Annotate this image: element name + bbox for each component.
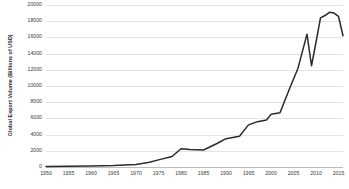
y-axis-title-text: Global Export Volume (Billions of USD) — [7, 34, 13, 136]
y-tick-label: 2000 — [30, 148, 42, 153]
x-tick-label: 2015 — [333, 170, 345, 176]
y-tick-label: 20000 — [28, 2, 42, 7]
x-tick-label: 1975 — [153, 170, 165, 176]
y-tick-label: 0 — [39, 164, 42, 169]
x-tick-label: 1985 — [198, 170, 210, 176]
y-tick-label: 18000 — [28, 19, 42, 24]
x-tick-label: 1990 — [220, 170, 232, 176]
x-tick-label: 1995 — [243, 170, 255, 176]
chart-figure: Global Export Volume (Billions of USD) 0… — [0, 0, 349, 189]
x-tick-label: 1970 — [130, 170, 142, 176]
plot-area — [46, 5, 343, 167]
x-tick-label: 1960 — [85, 170, 97, 176]
y-axis-tick-labels: 0200040006000800010000120001400016000180… — [20, 0, 44, 189]
x-axis-tick-labels: 1950195519601965197019751980198519901995… — [46, 170, 343, 182]
series-line-chart — [46, 5, 343, 167]
x-tick-label: 1950 — [40, 170, 52, 176]
y-tick-label: 16000 — [28, 35, 42, 40]
y-tick-label: 14000 — [28, 51, 42, 56]
series-line-global-export-volume — [46, 12, 343, 166]
y-tick-label: 8000 — [30, 100, 42, 105]
y-tick-label: 10000 — [28, 83, 42, 88]
x-tick-label: 2005 — [288, 170, 300, 176]
y-tick-label: 6000 — [30, 116, 42, 121]
x-tick-label: 1965 — [108, 170, 120, 176]
gridline — [46, 167, 343, 168]
y-tick-label: 4000 — [30, 132, 42, 137]
x-tick-label: 1955 — [63, 170, 75, 176]
x-tick-label: 1980 — [175, 170, 187, 176]
x-tick-label: 2010 — [310, 170, 322, 176]
y-axis-title: Global Export Volume (Billions of USD) — [0, 0, 20, 170]
y-tick-label: 12000 — [28, 67, 42, 72]
x-tick-label: 2000 — [265, 170, 277, 176]
